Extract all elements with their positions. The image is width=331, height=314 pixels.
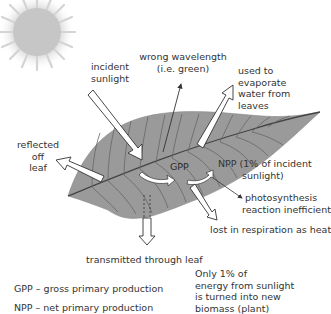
note-line: biomass (plant) <box>195 303 294 314</box>
label-gpp: GPP <box>170 161 189 173</box>
label-line: incident <box>80 61 140 73</box>
label-line: water from <box>238 88 290 100</box>
sun-icon <box>0 0 75 70</box>
label-npp: NPP (1% of incident sunlight) <box>218 158 312 181</box>
label-line: used to <box>238 65 290 77</box>
label-transmitted: transmitted through leaf <box>86 254 203 266</box>
label-evaporate-water: used to evaporate water from leaves <box>238 65 290 111</box>
label-line: NPP (1% of incident <box>218 158 312 170</box>
key-npp-definition: NPP – net primary production <box>14 302 153 314</box>
label-line: sunlight) <box>218 170 312 182</box>
note-line: Only 1% of <box>195 268 294 280</box>
label-line: leaves <box>238 100 290 112</box>
label-line: leaf <box>14 162 62 174</box>
label-line: reaction inefficient <box>242 204 331 216</box>
note-line: energy from sunlight <box>195 280 294 292</box>
label-line: wrong wavelength <box>133 51 233 63</box>
key-gpp-definition: GPP – gross primary production <box>14 283 163 295</box>
label-line: evaporate <box>238 77 290 89</box>
label-reflected-off-leaf: reflected off leaf <box>14 139 62 174</box>
label-respiration: lost in respiration as heat <box>210 224 331 236</box>
label-line: reflected <box>14 139 62 151</box>
label-incident-sunlight: incident sunlight <box>80 61 140 84</box>
label-line: off <box>14 151 62 163</box>
label-wrong-wavelength: wrong wavelength (i.e. green) <box>133 51 233 74</box>
label-line: (i.e. green) <box>133 63 233 75</box>
label-photosynthesis-inefficient: photosynthesis reaction inefficient <box>245 192 331 215</box>
note-energy-efficiency: Only 1% of energy from sunlight is turne… <box>195 268 294 314</box>
note-line: is turned into new <box>195 291 294 303</box>
label-line: sunlight <box>80 73 140 85</box>
label-line: photosynthesis <box>245 192 331 204</box>
